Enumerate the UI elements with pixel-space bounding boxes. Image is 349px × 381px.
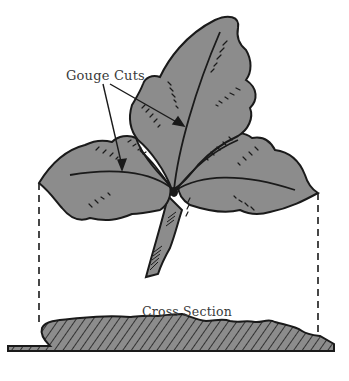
cross-section-label: Cross Section — [142, 304, 232, 319]
leaf-carving-diagram: Gouge Cuts Cross Section — [0, 0, 349, 381]
leaf-base — [170, 187, 178, 197]
diagram-svg — [0, 0, 349, 381]
cropped-caption — [40, 372, 310, 381]
gouge-cuts-label: Gouge Cuts — [66, 68, 145, 83]
cross-section-profile — [8, 314, 334, 351]
